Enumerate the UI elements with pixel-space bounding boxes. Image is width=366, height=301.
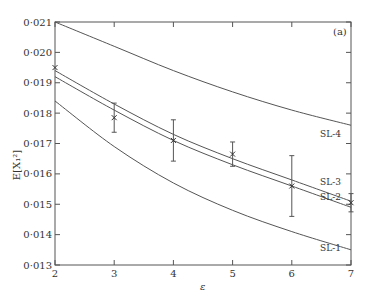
y-tick-label: 0·018 [23, 108, 52, 119]
curve-sl-1 [55, 101, 351, 250]
y-tick-label: 0·013 [23, 260, 52, 271]
label-sl-2: SL-2 [320, 192, 341, 202]
panel-label: (a) [333, 26, 347, 37]
y-tick-label: 0·014 [23, 229, 52, 240]
y-axis: 0·0130·0140·0150·0160·0170·0180·0190·020… [23, 17, 351, 271]
label-sl-4: SL-4 [320, 129, 341, 139]
y-tick-label: 0·015 [23, 199, 52, 210]
y-tick-label: 0·016 [23, 168, 52, 179]
y-tick-label: 0·019 [23, 77, 52, 88]
x-tick-label: 3 [111, 268, 117, 279]
y-tick-label: 0·021 [23, 17, 52, 28]
plot-frame [55, 22, 351, 265]
y-axis-label: E[X₁²] [11, 150, 22, 180]
data-points [53, 65, 354, 216]
chart: 0·0130·0140·0150·0160·0170·0180·0190·020… [0, 0, 366, 301]
y-tick-label: 0·020 [23, 47, 52, 58]
x-tick-label: 2 [52, 268, 58, 279]
y-tick-label: 0·017 [23, 138, 52, 149]
x-axis-label: ε [200, 281, 205, 292]
label-sl-3: SL-3 [320, 177, 341, 187]
x-tick-label: 4 [170, 268, 176, 279]
label-sl-1: SL-1 [320, 243, 341, 253]
x-axis: 234567 [52, 22, 354, 279]
x-tick-label: 6 [289, 268, 295, 279]
curve-sl-4 [55, 22, 351, 125]
x-tick-label: 7 [348, 268, 354, 279]
series-curves [55, 22, 351, 250]
x-tick-label: 5 [229, 268, 235, 279]
